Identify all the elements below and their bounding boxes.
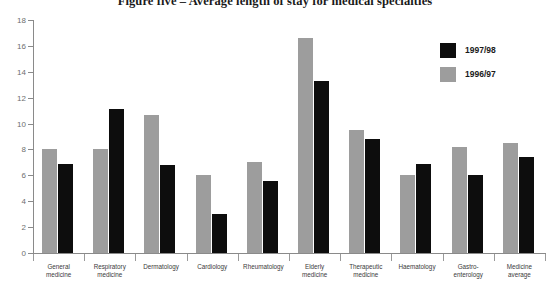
category-separator bbox=[289, 254, 290, 261]
category-label-line: Haematology bbox=[391, 263, 442, 271]
category-label: Elderlymedicine bbox=[289, 263, 340, 279]
category-label-line: Therapeutic bbox=[340, 263, 391, 271]
bar-1997-98 bbox=[365, 139, 380, 253]
category-separator bbox=[187, 254, 188, 261]
y-axis-tick bbox=[28, 175, 33, 176]
bar-group bbox=[239, 20, 290, 253]
y-axis-tick-label: 18 bbox=[0, 16, 26, 25]
y-axis-tick-label: 2 bbox=[0, 223, 26, 232]
bar-1996-97 bbox=[400, 175, 415, 253]
bar-group bbox=[188, 20, 239, 253]
bar-group bbox=[136, 20, 187, 253]
chart-container: Figure five – Average length of stay for… bbox=[0, 0, 550, 282]
bar-1997-98 bbox=[519, 157, 534, 253]
category-label: Therapeuticmedicine bbox=[340, 263, 391, 279]
category-separator bbox=[238, 254, 239, 261]
y-axis-tick bbox=[28, 98, 33, 99]
bar-group bbox=[392, 20, 443, 253]
y-axis-tick bbox=[28, 201, 33, 202]
bar-1996-97 bbox=[93, 149, 108, 253]
category-label: Medicineaverage bbox=[494, 263, 545, 279]
bar-1996-97 bbox=[42, 149, 57, 253]
category-label: Rheumatology bbox=[238, 263, 289, 271]
category-label-line: enterology bbox=[443, 271, 494, 279]
category-label: Gastro-enterology bbox=[443, 263, 494, 279]
bar-1997-98 bbox=[109, 109, 124, 253]
y-axis-tick bbox=[28, 72, 33, 73]
category-label-line: Gastro- bbox=[443, 263, 494, 271]
legend-swatch-icon-1997-98 bbox=[440, 43, 456, 58]
bar-1997-98 bbox=[212, 214, 227, 253]
y-axis-tick bbox=[28, 20, 33, 21]
category-label-line: Medicine bbox=[494, 263, 545, 271]
bar-1996-97 bbox=[144, 115, 159, 254]
bar-group bbox=[495, 20, 546, 253]
category-label-line: Dermatology bbox=[135, 263, 186, 271]
bar-group bbox=[341, 20, 392, 253]
category-label-line: medicine bbox=[33, 271, 84, 279]
bar-1997-98 bbox=[416, 164, 431, 253]
bar-1997-98 bbox=[160, 165, 175, 253]
category-label-line: Cardiology bbox=[187, 263, 238, 271]
bar-group bbox=[85, 20, 136, 253]
bar-1997-98 bbox=[314, 81, 329, 253]
category-separator bbox=[391, 254, 392, 261]
bar-1997-98 bbox=[58, 164, 73, 253]
bar-1997-98 bbox=[263, 181, 278, 253]
bar-1996-97 bbox=[503, 143, 518, 253]
y-axis-tick bbox=[28, 149, 33, 150]
legend-label-1997-98: 1997/98 bbox=[465, 45, 496, 55]
category-label-line: medicine bbox=[289, 271, 340, 279]
category-label: Haematology bbox=[391, 263, 442, 271]
category-label: Dermatology bbox=[135, 263, 186, 271]
chart-title: Figure five – Average length of stay for… bbox=[0, 0, 550, 9]
category-label-line: medicine bbox=[340, 271, 391, 279]
category-label-line: General bbox=[33, 263, 84, 271]
legend-swatch-icon-1996-97 bbox=[440, 67, 456, 82]
bar-1996-97 bbox=[349, 130, 364, 253]
y-axis-tick-label: 12 bbox=[0, 93, 26, 102]
y-axis-tick-label: 6 bbox=[0, 171, 26, 180]
y-axis-tick-label: 10 bbox=[0, 119, 26, 128]
category-label: Generalmedicine bbox=[33, 263, 84, 279]
category-separator bbox=[340, 254, 341, 261]
category-label: Respiratorymedicine bbox=[84, 263, 135, 279]
category-separator bbox=[545, 254, 546, 261]
y-axis-tick bbox=[28, 46, 33, 47]
bar-1996-97 bbox=[196, 175, 211, 253]
legend-label-1996-97: 1996/97 bbox=[465, 69, 496, 79]
category-label-line: average bbox=[494, 271, 545, 279]
y-axis-tick-label: 0 bbox=[0, 249, 26, 258]
category-separator bbox=[84, 254, 85, 261]
y-axis-tick-label: 8 bbox=[0, 145, 26, 154]
y-axis-tick-label: 16 bbox=[0, 41, 26, 50]
y-axis-tick-label: 14 bbox=[0, 67, 26, 76]
category-label-line: medicine bbox=[84, 271, 135, 279]
category-label: Cardiology bbox=[187, 263, 238, 271]
bar-1996-97 bbox=[452, 147, 467, 253]
bar-1997-98 bbox=[468, 175, 483, 253]
category-separator bbox=[494, 254, 495, 261]
y-axis-tick bbox=[28, 124, 33, 125]
bar-group bbox=[34, 20, 85, 253]
y-axis-tick-label: 4 bbox=[0, 197, 26, 206]
category-separator bbox=[443, 254, 444, 261]
y-axis-tick bbox=[28, 227, 33, 228]
category-label-line: Respiratory bbox=[84, 263, 135, 271]
category-separator bbox=[33, 254, 34, 261]
bar-group bbox=[290, 20, 341, 253]
category-label-line: Elderly bbox=[289, 263, 340, 271]
bar-1996-97 bbox=[298, 38, 313, 253]
category-separator bbox=[135, 254, 136, 261]
bar-1996-97 bbox=[247, 162, 262, 253]
category-label-line: Rheumatology bbox=[238, 263, 289, 271]
